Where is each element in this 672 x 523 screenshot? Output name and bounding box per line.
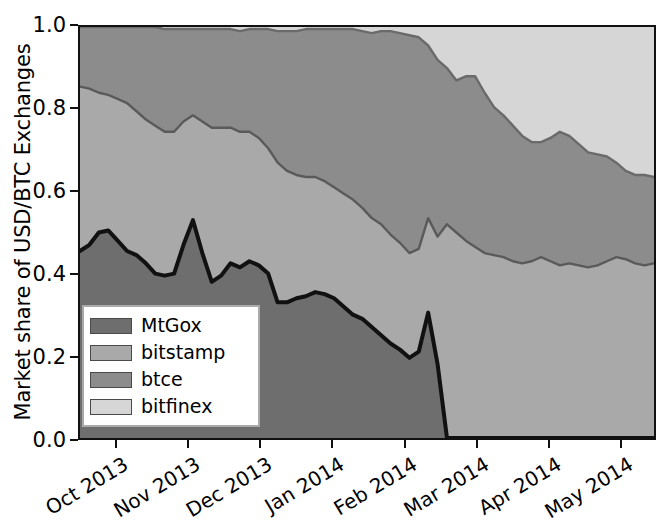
x-tick-label: May 2014 [540, 452, 638, 523]
x-tick-label: Feb 2014 [323, 452, 421, 523]
y-tick-mark [70, 273, 78, 275]
legend-label: MtGox [141, 316, 202, 335]
legend-item-btce: btce [90, 366, 252, 393]
y-tick-mark [70, 356, 78, 358]
x-tick-label: Jan 2014 [251, 452, 349, 523]
legend-swatch-icon [90, 372, 132, 388]
x-tick-label: Oct 2013 [34, 452, 132, 523]
legend-swatch-icon [90, 345, 132, 361]
chart-legend: MtGoxbitstampbtcebitfinex [82, 305, 260, 427]
legend-swatch-icon [90, 318, 132, 334]
y-tick-mark [70, 107, 78, 109]
x-tick-mark [331, 440, 333, 448]
x-tick-label: Nov 2013 [106, 452, 204, 523]
x-tick-mark [115, 440, 117, 448]
legend-label: bitfinex [141, 397, 212, 416]
x-tick-mark [259, 440, 261, 448]
y-tick-mark [70, 190, 78, 192]
legend-label: bitstamp [141, 343, 225, 362]
y-axis-label: Market share of USD/BTC Exchanges [6, 2, 40, 462]
x-tick-mark [404, 440, 406, 448]
legend-swatch-icon [90, 399, 132, 415]
x-tick-mark [476, 440, 478, 448]
legend-item-bitstamp: bitstamp [90, 339, 252, 366]
chart-figure: Market share of USD/BTC Exchanges 0.00.2… [0, 0, 672, 523]
x-tick-label: Mar 2014 [395, 452, 493, 523]
x-tick-label: Dec 2013 [178, 452, 276, 523]
x-tick-mark [548, 440, 550, 448]
y-tick-mark [70, 24, 78, 26]
legend-item-mtgox: MtGox [90, 312, 252, 339]
x-tick-mark [187, 440, 189, 448]
x-tick-mark [620, 440, 622, 448]
x-tick-label: Apr 2014 [467, 452, 565, 523]
legend-item-bitfinex: bitfinex [90, 393, 252, 420]
legend-label: btce [141, 370, 183, 389]
y-tick-mark [70, 439, 78, 441]
